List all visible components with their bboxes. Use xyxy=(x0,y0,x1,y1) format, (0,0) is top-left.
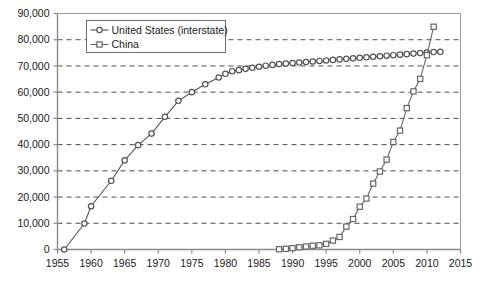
data-point xyxy=(276,61,281,66)
data-point xyxy=(411,89,416,94)
y-tick-label: 70,000 xyxy=(17,60,49,72)
legend-marker xyxy=(97,42,102,47)
x-tick-label: 1975 xyxy=(180,257,204,269)
data-point xyxy=(62,247,67,252)
x-tick-label: 2005 xyxy=(382,257,406,269)
legend-item-united-states: United States (interstate) xyxy=(91,24,228,36)
x-tick-label: 1955 xyxy=(46,257,70,269)
x-tick-label: 1965 xyxy=(113,257,137,269)
data-point xyxy=(283,61,288,66)
legend-label: China xyxy=(112,38,140,50)
data-point xyxy=(411,51,416,56)
data-point xyxy=(350,56,355,61)
data-point xyxy=(236,67,241,72)
data-point xyxy=(310,59,315,64)
data-point xyxy=(397,128,402,133)
data-point xyxy=(303,244,308,249)
data-point xyxy=(263,63,268,68)
data-point xyxy=(391,139,396,144)
y-tick-label: 20,000 xyxy=(17,191,49,203)
data-point xyxy=(344,224,349,229)
data-point xyxy=(109,178,114,183)
x-tick-label: 1960 xyxy=(79,257,103,269)
data-point xyxy=(297,245,302,250)
data-point xyxy=(149,131,154,136)
data-point xyxy=(397,52,402,57)
data-point xyxy=(330,238,335,243)
chart-container: 010,00020,00030,00040,00050,00060,00070,… xyxy=(0,0,480,285)
data-point xyxy=(418,50,423,55)
x-tick-label: 1970 xyxy=(147,257,171,269)
data-point xyxy=(377,169,382,174)
data-point xyxy=(317,243,322,248)
data-point xyxy=(384,157,389,162)
x-tick-label: 2015 xyxy=(449,257,473,269)
data-point xyxy=(371,181,376,186)
legend-marker xyxy=(97,27,102,32)
data-point xyxy=(418,76,423,81)
data-point xyxy=(438,49,443,54)
x-tick-label: 1985 xyxy=(247,257,271,269)
data-point xyxy=(357,55,362,60)
data-point xyxy=(135,142,140,147)
x-tick-label: 1980 xyxy=(214,257,238,269)
data-point xyxy=(310,243,315,248)
data-point xyxy=(203,82,208,87)
y-tick-label: 0 xyxy=(44,243,50,255)
data-point xyxy=(250,65,255,70)
data-point xyxy=(404,51,409,56)
y-tick-label: 90,000 xyxy=(17,7,49,19)
data-point xyxy=(82,221,87,226)
y-tick-label: 60,000 xyxy=(17,86,49,98)
data-point xyxy=(270,62,275,67)
chart-legend: United States (interstate)China xyxy=(87,21,228,53)
line-chart: 010,00020,00030,00040,00050,00060,00070,… xyxy=(0,0,480,285)
data-point xyxy=(216,75,221,80)
data-point xyxy=(337,57,342,62)
data-point xyxy=(290,60,295,65)
data-point xyxy=(431,49,436,54)
data-point xyxy=(122,158,127,163)
y-tick-label: 80,000 xyxy=(17,33,49,45)
data-point xyxy=(223,71,228,76)
data-point xyxy=(162,114,167,119)
data-point xyxy=(337,234,342,239)
y-tick-label: 10,000 xyxy=(17,217,49,229)
y-tick-label: 30,000 xyxy=(17,164,49,176)
data-point xyxy=(357,204,362,209)
x-tick-label: 1990 xyxy=(281,257,305,269)
legend-label: United States (interstate) xyxy=(112,24,228,36)
y-tick-label: 40,000 xyxy=(17,138,49,150)
data-point xyxy=(384,53,389,58)
x-tick-label: 1995 xyxy=(314,257,338,269)
data-point xyxy=(176,98,181,103)
data-point xyxy=(377,54,382,59)
data-point xyxy=(350,216,355,221)
data-point xyxy=(189,89,194,94)
x-tick-label: 2010 xyxy=(415,257,439,269)
y-tick-label: 50,000 xyxy=(17,112,49,124)
data-point xyxy=(431,24,436,29)
data-point xyxy=(256,64,261,69)
x-tick-label: 2000 xyxy=(348,257,372,269)
data-point xyxy=(317,58,322,63)
data-point xyxy=(404,106,409,111)
data-point xyxy=(283,246,288,251)
data-point xyxy=(297,60,302,65)
data-point xyxy=(323,58,328,63)
data-point xyxy=(330,57,335,62)
data-point xyxy=(229,68,234,73)
data-point xyxy=(424,53,429,58)
data-point xyxy=(88,204,93,209)
data-point xyxy=(324,241,329,246)
data-point xyxy=(277,247,282,252)
chart-background xyxy=(0,0,480,285)
data-point xyxy=(290,246,295,251)
data-point xyxy=(243,66,248,71)
data-point xyxy=(364,196,369,201)
data-point xyxy=(303,59,308,64)
data-point xyxy=(344,56,349,61)
data-point xyxy=(364,55,369,60)
data-point xyxy=(391,52,396,57)
data-point xyxy=(370,54,375,59)
